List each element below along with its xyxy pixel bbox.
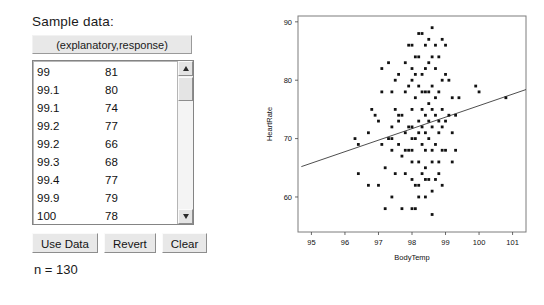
y-axis-title: HeartRate [265, 107, 274, 141]
data-point [458, 96, 461, 99]
revert-button[interactable]: Revert [104, 233, 156, 253]
data-point [474, 85, 477, 88]
data-point [417, 196, 420, 199]
scatterplot: 607080909596979899100101BodyTempHeartRat… [256, 8, 534, 270]
y-tick-label: 70 [284, 134, 292, 143]
cell-response: 68 [105, 153, 155, 171]
data-point [417, 120, 420, 123]
data-point [377, 120, 380, 123]
data-point [441, 149, 444, 152]
data-point [411, 161, 414, 164]
vertical-scrollbar[interactable] [177, 61, 193, 224]
data-point [394, 79, 397, 82]
list-item[interactable]: 9981 [33, 63, 176, 81]
cell-response: 74 [105, 99, 155, 117]
data-point [411, 178, 414, 181]
data-point [441, 38, 444, 41]
data-point [424, 114, 427, 117]
list-item[interactable]: 99.368 [33, 153, 176, 171]
data-point [407, 44, 410, 47]
list-item[interactable]: 99.477 [33, 171, 176, 189]
list-item[interactable]: 99.180 [33, 81, 176, 99]
data-point [427, 38, 430, 41]
data-point [390, 126, 393, 129]
x-tick-label: 96 [341, 238, 349, 247]
cell-explanatory: 99.1 [37, 81, 105, 99]
data-point [407, 85, 410, 88]
data-point [431, 161, 434, 164]
data-point [411, 108, 414, 111]
data-point [397, 143, 400, 146]
data-point [380, 143, 383, 146]
data-point [367, 184, 370, 187]
data-point [394, 108, 397, 111]
data-point [390, 196, 393, 199]
data-point [404, 172, 407, 175]
list-item[interactable]: 99.266 [33, 135, 176, 153]
data-point [387, 137, 390, 140]
data-point [370, 108, 373, 111]
arrow-up-icon [183, 66, 189, 71]
x-tick-label: 100 [473, 238, 486, 247]
cell-explanatory: 99 [37, 63, 105, 81]
data-point [421, 143, 424, 146]
data-point [424, 166, 427, 169]
data-point [401, 155, 404, 158]
data-point [407, 149, 410, 152]
data-point [380, 67, 383, 70]
cell-explanatory: 99.4 [37, 171, 105, 189]
cell-response: 66 [105, 135, 155, 153]
data-point [417, 85, 420, 88]
data-point [390, 137, 393, 140]
data-point [427, 102, 430, 105]
data-point [414, 184, 417, 187]
data-point [427, 178, 430, 181]
data-point [427, 90, 430, 93]
data-point [404, 61, 407, 64]
data-point [390, 149, 393, 152]
data-point [417, 32, 420, 35]
list-item[interactable]: 99.979 [33, 189, 176, 207]
scatterplot-svg: 607080909596979899100101BodyTempHeartRat… [256, 8, 534, 270]
x-tick-label: 97 [374, 238, 382, 247]
data-point [384, 207, 387, 210]
x-tick-label: 99 [441, 238, 449, 247]
data-point [437, 161, 440, 164]
data-point [404, 90, 407, 93]
data-point [427, 137, 430, 140]
data-point [417, 131, 420, 134]
scroll-down-button[interactable] [178, 209, 193, 224]
data-point [397, 120, 400, 123]
data-point [431, 213, 434, 216]
data-point [424, 131, 427, 134]
list-item[interactable]: 99.277 [33, 117, 176, 135]
data-point [401, 114, 404, 117]
action-buttons: Use Data Revert Clear [32, 233, 220, 253]
data-point [434, 44, 437, 47]
data-point [411, 126, 414, 129]
data-point [411, 44, 414, 47]
clear-button[interactable]: Clear [162, 233, 207, 253]
data-point [357, 143, 360, 146]
data-point [397, 73, 400, 76]
data-point [441, 79, 444, 82]
data-point [451, 96, 454, 99]
data-point [414, 137, 417, 140]
data-point [367, 131, 370, 134]
scroll-up-button[interactable] [178, 61, 193, 76]
list-item[interactable]: 99.174 [33, 99, 176, 117]
scrollbar-thumb[interactable] [178, 77, 193, 101]
data-point [411, 67, 414, 70]
data-point [401, 207, 404, 210]
use-data-button[interactable]: Use Data [32, 233, 98, 253]
list-item[interactable]: 10078 [33, 207, 176, 224]
data-point [431, 108, 434, 111]
data-listbox[interactable]: 998199.18099.17499.27799.26699.36899.477… [32, 60, 194, 225]
column-header-button[interactable]: (explanatory,response) [32, 35, 192, 54]
data-point [411, 149, 414, 152]
cell-explanatory: 99.2 [37, 135, 105, 153]
cell-response: 79 [105, 189, 155, 207]
data-point [414, 96, 417, 99]
cell-response: 77 [105, 117, 155, 135]
data-point [417, 55, 420, 58]
